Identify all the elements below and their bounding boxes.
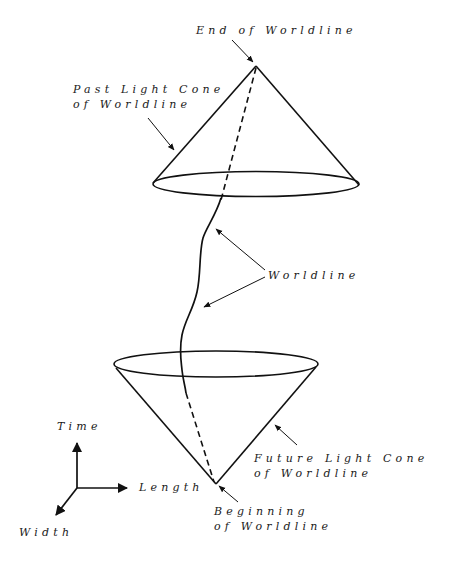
future-cone-label-line1: Future Light Cone [254, 451, 428, 466]
beginning-of-worldline-label: Beginning of Worldline [214, 504, 332, 534]
past-cone-label-line1: Past Light Cone [73, 82, 225, 97]
worldline-hidden-segment-top [221, 68, 256, 200]
future-cone-label-line2: of Worldline [254, 466, 428, 481]
beginning-label-line2: of Worldline [214, 519, 332, 534]
time-label-text: Time [57, 419, 102, 434]
worldline-light-cone-diagram [0, 0, 451, 567]
axis-triad [56, 443, 127, 515]
worldline-label: Worldline [268, 268, 359, 283]
future-cone-arrow [275, 425, 297, 445]
length-axis-label: Length [139, 480, 204, 495]
past-cone-label-line2: of Worldline [73, 97, 225, 112]
width-label-text: Width [19, 525, 73, 540]
time-axis-label: Time [57, 419, 102, 434]
length-label-text: Length [139, 480, 204, 495]
worldline-curve [180, 198, 221, 393]
future-light-cone-label: Future Light Cone of Worldline [254, 451, 428, 481]
worldline-arrow-lower [204, 277, 265, 307]
worldline-arrow-upper [216, 229, 265, 270]
end-of-worldline-label: End of Worldline [196, 23, 357, 38]
beginning-label-line1: Beginning [214, 504, 332, 519]
beginning-arrow [219, 486, 238, 502]
past-cone-arrow [148, 118, 174, 150]
worldline-hidden-segment-bottom [186, 393, 214, 482]
end-arrow [232, 40, 253, 62]
width-axis-arrow [56, 488, 77, 515]
worldline-label-text: Worldline [268, 268, 359, 283]
width-axis-label: Width [19, 525, 73, 540]
past-light-cone-label: Past Light Cone of Worldline [73, 82, 225, 112]
end-label-text: End of Worldline [196, 23, 357, 38]
